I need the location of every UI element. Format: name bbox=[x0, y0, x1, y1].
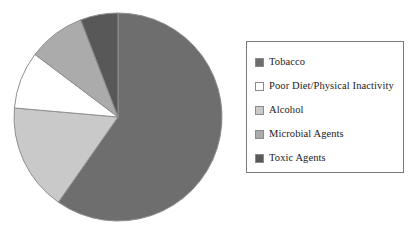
chart-legend: Tobacco Poor Diet/Physical Inactivity Al… bbox=[246, 41, 404, 173]
legend-swatch-microbial-agents bbox=[255, 130, 264, 139]
legend-swatch-toxic-agents bbox=[255, 154, 264, 163]
legend-item-alcohol[interactable]: Alcohol bbox=[255, 98, 403, 122]
pie-svg bbox=[0, 0, 236, 232]
legend-swatch-poor-diet-physical-inactivity bbox=[255, 82, 264, 91]
legend-swatch-alcohol bbox=[255, 106, 264, 115]
legend-item-tobacco[interactable]: Tobacco bbox=[255, 50, 403, 74]
pie-chart-graphic bbox=[0, 0, 236, 232]
legend-item-microbial-agents[interactable]: Microbial Agents bbox=[255, 122, 403, 146]
legend-label-alcohol: Alcohol bbox=[269, 98, 304, 122]
legend-label-microbial-agents: Microbial Agents bbox=[269, 122, 344, 146]
legend-swatch-tobacco bbox=[255, 58, 264, 67]
legend-label-poor-diet-physical-inactivity: Poor Diet/Physical Inactivity bbox=[269, 74, 394, 98]
legend-label-toxic-agents: Toxic Agents bbox=[269, 146, 326, 170]
legend-label-tobacco: Tobacco bbox=[269, 50, 305, 74]
legend-item-toxic-agents[interactable]: Toxic Agents bbox=[255, 146, 403, 170]
legend-item-poor-diet-physical-inactivity[interactable]: Poor Diet/Physical Inactivity bbox=[255, 74, 403, 98]
pie-slice-group bbox=[14, 13, 222, 221]
pie-chart-figure: Tobacco Poor Diet/Physical Inactivity Al… bbox=[0, 0, 411, 232]
